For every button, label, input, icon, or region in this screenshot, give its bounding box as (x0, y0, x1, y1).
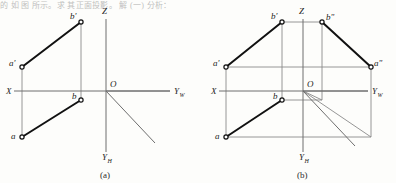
figure-b-caption: (b) (297, 170, 308, 180)
point-label-b: b (273, 91, 278, 101)
point-label-b-prime: b' (70, 11, 78, 21)
z-axis-label: Z (102, 6, 108, 16)
figure-a-labels: XZYWYHOa'b'ab (5, 6, 186, 164)
yh-axis-label: YH (102, 152, 113, 164)
figure-a-points (20, 20, 83, 139)
point-a-prime (224, 65, 228, 69)
point-label-a-double-prime: aʺ (374, 58, 383, 68)
figure-a-canvas: XZYWYHOa'b'ab XZYWYHOa'b'bʺaʺab (0, 0, 396, 183)
yw-axis-label: YW (174, 86, 186, 98)
figure-b-points (224, 20, 373, 139)
figure-b-projection-lines (226, 22, 371, 137)
point-a (224, 135, 228, 139)
figure-b-axes (219, 19, 368, 152)
point-label-a: a (215, 131, 220, 141)
point-b-double-prime (320, 20, 324, 24)
figure-b-labels: XZYWYHOa'b'bʺaʺab (210, 6, 384, 164)
origin-label: O (110, 79, 117, 89)
figure-b-segments (226, 22, 371, 137)
point-a-double-prime (369, 65, 373, 69)
point-label-a: a (11, 131, 16, 141)
segment-a-prime-b-prime (22, 22, 81, 67)
figure-a-caption: (a) (100, 170, 110, 180)
point-b (280, 98, 284, 102)
x-axis-label: X (5, 86, 12, 96)
point-b (79, 98, 83, 102)
y-oblique-axis (303, 91, 355, 146)
point-label-b-prime: b' (271, 11, 279, 21)
x-axis-label: X (210, 86, 217, 96)
point-label-b-double-prime: bʺ (326, 12, 335, 22)
point-b-prime (79, 20, 83, 24)
point-a-prime (20, 65, 24, 69)
miter-line-b (303, 91, 322, 100)
figure-page: 的 如 图 所示。求 其正面投影。 解 (一) 分析： XZYWYHOa'b'a… (0, 0, 396, 183)
segment-a-b (22, 100, 81, 137)
figure-a-projection-lines (22, 22, 81, 137)
point-label-a-prime: a' (9, 58, 17, 68)
figure-a-segments (22, 22, 81, 137)
z-axis-label: Z (299, 6, 305, 16)
yw-axis-label: YW (372, 86, 384, 98)
miter-line-a (303, 91, 371, 137)
figure-a-axes (14, 19, 170, 152)
y-oblique-axis (106, 91, 155, 143)
segment-a-prime-b-prime (226, 22, 282, 67)
segment-a-b (226, 100, 282, 137)
point-label-b: b (72, 91, 77, 101)
point-label-a-prime: a' (213, 58, 221, 68)
origin-label: O (307, 79, 314, 89)
point-b-prime (280, 20, 284, 24)
yh-axis-label: YH (299, 152, 310, 164)
segment-b-double-prime-a-double-prime (322, 22, 371, 67)
point-a (20, 135, 24, 139)
